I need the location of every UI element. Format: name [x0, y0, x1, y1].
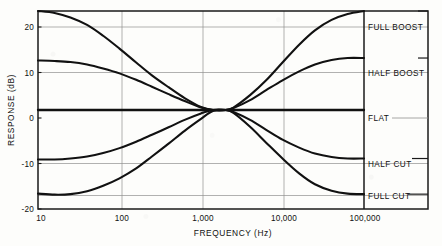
response-curves — [38, 11, 364, 195]
x-tick-labels: 10 100 1,000 10,000 100,000 — [36, 214, 381, 223]
y-tick-label-10: 10 — [24, 69, 34, 78]
legend-labels: FULL BOOST HALF BOOST FLAT HALF CUT FULL… — [368, 23, 424, 201]
x-tick-label-10000: 10,000 — [271, 214, 297, 223]
curve-half-boost — [38, 58, 364, 110]
curve-half-cut — [38, 110, 364, 160]
x-tick-label-10: 10 — [36, 214, 46, 223]
legend-label-full-boost: FULL BOOST — [368, 23, 423, 32]
legend-label-full-cut: FULL CUT — [368, 192, 410, 201]
y-axis-title: RESPONSE (dB) — [6, 74, 16, 146]
curve-full-cut — [38, 110, 364, 195]
x-tick-label-100: 100 — [115, 214, 130, 223]
x-tick-label-1000: 1,000 — [192, 214, 214, 223]
curve-full-boost — [38, 11, 364, 110]
legend-label-half-cut: HALF CUT — [368, 160, 412, 169]
y-tick-label-20: 20 — [24, 23, 34, 32]
legend-label-half-boost: HALF BOOST — [368, 69, 424, 78]
eq-response-figure: 20 10 0 -10 -20 10 100 1,000 10,000 100,… — [0, 0, 442, 246]
x-tick-label-100000: 100,000 — [350, 214, 381, 223]
legend-label-flat: FLAT — [368, 114, 389, 123]
chart-canvas: 20 10 0 -10 -20 10 100 1,000 10,000 100,… — [0, 0, 442, 246]
y-tick-labels: 20 10 0 -10 -20 — [22, 23, 35, 214]
y-tick-label-neg20: -20 — [22, 205, 35, 214]
y-tick-label-neg10: -10 — [22, 160, 35, 169]
y-tick-label-0: 0 — [29, 114, 34, 123]
x-axis-title: FREQUENCY (Hz) — [194, 228, 272, 238]
